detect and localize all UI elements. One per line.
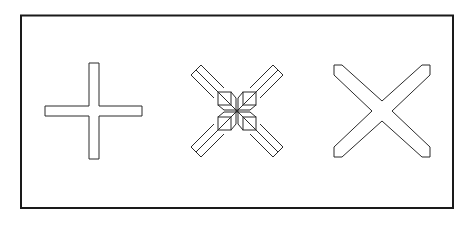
faceted-x-shape [191,65,283,157]
plus-cross-shape [45,63,142,159]
beveled-x-shape [334,65,430,157]
